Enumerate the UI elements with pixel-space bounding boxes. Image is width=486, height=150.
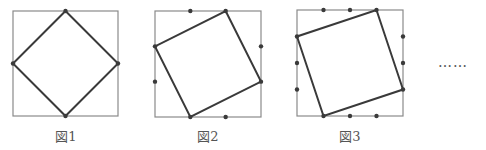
division-point <box>321 114 325 118</box>
continuation-ellipsis: …… <box>438 54 468 70</box>
inner-square <box>155 11 261 117</box>
division-point <box>374 114 378 118</box>
division-point <box>63 9 67 13</box>
figure-2 <box>153 9 263 119</box>
division-point <box>188 9 192 13</box>
outer-square <box>297 10 403 116</box>
inner-square <box>297 10 403 116</box>
caption-figure-2: 図2 <box>178 126 238 145</box>
division-point <box>295 61 299 65</box>
division-point <box>321 8 325 12</box>
division-point <box>259 44 263 48</box>
division-point <box>401 61 405 65</box>
division-point <box>401 87 405 91</box>
division-point <box>153 44 157 48</box>
division-point <box>295 87 299 91</box>
division-point <box>11 61 15 65</box>
division-point <box>259 79 263 83</box>
division-point <box>401 34 405 38</box>
division-point <box>153 79 157 83</box>
division-point <box>188 115 192 119</box>
division-point <box>348 114 352 118</box>
outer-square <box>13 11 118 116</box>
outer-square <box>155 11 261 117</box>
division-point <box>348 8 352 12</box>
division-point <box>223 115 227 119</box>
inner-square <box>13 11 118 116</box>
caption-figure-1: 図1 <box>36 126 96 145</box>
division-point <box>295 34 299 38</box>
caption-figure-3: 図3 <box>320 126 380 145</box>
figure-1 <box>11 9 120 118</box>
division-point <box>223 9 227 13</box>
division-point <box>63 114 67 118</box>
division-point <box>116 61 120 65</box>
figure-3 <box>295 8 405 118</box>
division-point <box>374 8 378 12</box>
